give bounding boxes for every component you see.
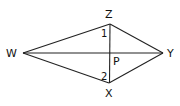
vertex-label-w: W [6, 47, 17, 60]
angle-label-1: 1 [101, 28, 107, 39]
vertex-label-x: X [105, 87, 113, 100]
vertex-label-z: Z [105, 8, 113, 21]
angle-label-2: 2 [101, 71, 107, 82]
side-zy [110, 24, 163, 53]
intersection-label-p: P [113, 55, 120, 68]
side-xw [23, 53, 109, 83]
diagonal-zx [110, 24, 111, 83]
side-wz [23, 24, 110, 53]
kite-diagram: Z W Y X P 1 2 [0, 0, 180, 106]
vertex-label-y: Y [166, 47, 174, 60]
